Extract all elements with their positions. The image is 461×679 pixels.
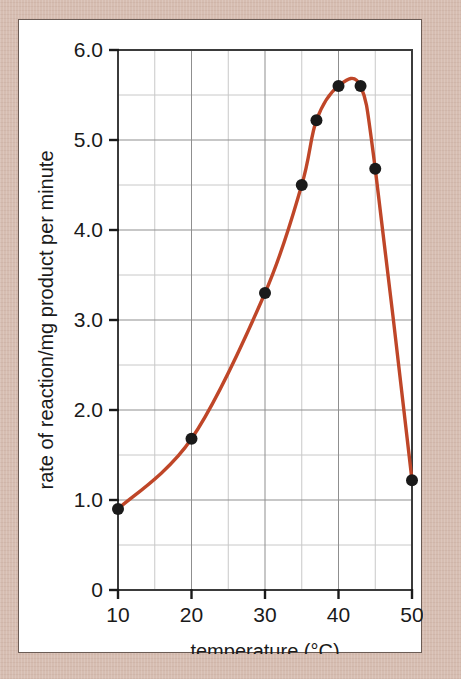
data-point-marker bbox=[333, 80, 345, 92]
major-gridlines bbox=[118, 50, 412, 590]
x-axis-tick-labels: 1020304050 bbox=[106, 603, 423, 626]
y-axis-tick-label: 3.0 bbox=[74, 308, 103, 331]
y-axis-title: rate of reaction/mg product per minute bbox=[35, 150, 57, 489]
data-point-marker bbox=[355, 80, 367, 92]
y-axis-tick-labels: 01.02.03.04.05.06.0 bbox=[74, 38, 103, 601]
x-axis-tick-label: 10 bbox=[106, 603, 129, 626]
y-axis-tick-label: 2.0 bbox=[74, 398, 103, 421]
data-point-marker bbox=[259, 287, 271, 299]
data-point-marker bbox=[186, 433, 198, 445]
data-point-marker bbox=[406, 474, 418, 486]
data-point-marker bbox=[369, 163, 381, 175]
y-axis-tick-label: 5.0 bbox=[74, 128, 103, 151]
data-point-marker bbox=[112, 503, 124, 515]
x-axis-title: temperature (°C) bbox=[190, 640, 339, 654]
chart-card: 01.02.03.04.05.06.0 1020304050 temperatu… bbox=[18, 19, 422, 653]
data-point-marker bbox=[296, 179, 308, 191]
figure-root: 01.02.03.04.05.06.0 1020304050 temperatu… bbox=[0, 0, 461, 679]
y-axis-tick-label: 0 bbox=[91, 578, 103, 601]
data-point-marker bbox=[310, 114, 322, 126]
x-axis-tick-label: 20 bbox=[180, 603, 203, 626]
x-axis-tick-label: 30 bbox=[253, 603, 276, 626]
reaction-rate-vs-temperature-chart: 01.02.03.04.05.06.0 1020304050 temperatu… bbox=[19, 20, 423, 654]
y-axis-tick-label: 4.0 bbox=[74, 218, 103, 241]
x-axis-tick-label: 50 bbox=[400, 603, 423, 626]
y-axis-tick-label: 6.0 bbox=[74, 38, 103, 61]
y-axis-tick-label: 1.0 bbox=[74, 488, 103, 511]
x-axis-tick-label: 40 bbox=[327, 603, 350, 626]
